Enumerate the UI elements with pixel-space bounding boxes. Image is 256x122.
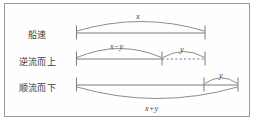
segment-label-x-plus-y: x+y (145, 104, 158, 113)
row-label-boat-speed: 船速 (28, 31, 46, 40)
row3-arc-x-plus-y (77, 87, 238, 99)
segment-label-x-minus-y: x−y (110, 42, 123, 51)
row-label-downstream: 顺流而下 (19, 84, 56, 93)
segment-label-y-upstream: y (180, 45, 184, 54)
diagram-figure: 船速 逆流而上 顺流而下 x x−y y y x+y (0, 0, 256, 122)
row1-arc-x (77, 22, 205, 32)
row-label-upstream: 逆流而上 (19, 58, 56, 67)
segment-label-x: x (136, 12, 140, 21)
segment-label-y-downstream: y (219, 71, 223, 80)
